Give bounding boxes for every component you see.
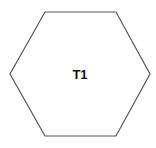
node-label: T1 <box>72 67 87 82</box>
diagram-canvas: T1 <box>0 0 156 148</box>
